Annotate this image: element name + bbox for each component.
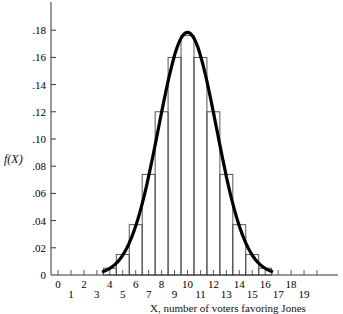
histogram-bar bbox=[129, 225, 142, 275]
x-tick-label: 9 bbox=[172, 288, 178, 300]
y-tick-label: .02 bbox=[32, 242, 46, 254]
histogram-bars bbox=[103, 36, 271, 275]
x-tick-label: 12 bbox=[208, 278, 219, 290]
x-tick-label: 18 bbox=[286, 278, 298, 290]
x-tick-label: 8 bbox=[159, 278, 165, 290]
normal-curve bbox=[102, 32, 273, 272]
x-tick-label: 15 bbox=[247, 288, 259, 300]
y-tick-label: .04 bbox=[32, 215, 46, 227]
x-tick-label: 1 bbox=[68, 288, 74, 300]
x-tick-label: 6 bbox=[133, 278, 139, 290]
x-tick-label: 2 bbox=[81, 278, 87, 290]
x-tick-label: 11 bbox=[195, 288, 206, 300]
y-tick-label: .14 bbox=[32, 79, 46, 91]
y-tick-label: .06 bbox=[32, 187, 46, 199]
y-tick-label: .18 bbox=[32, 24, 46, 36]
x-tick-label: 16 bbox=[260, 278, 272, 290]
y-axis-ticks: 0.02.04.06.08.10.12.14.16.18 bbox=[32, 24, 56, 281]
y-axis-label: f(X) bbox=[4, 152, 23, 167]
x-axis-label: X, number of voters favoring Jones bbox=[150, 302, 306, 314]
y-tick-label: .12 bbox=[32, 106, 46, 118]
x-tick-label: 14 bbox=[234, 278, 246, 290]
y-tick-label: .10 bbox=[32, 133, 46, 145]
y-tick-label: .16 bbox=[32, 51, 46, 63]
histogram-bar bbox=[168, 57, 181, 275]
y-tick-label: .08 bbox=[32, 160, 46, 172]
x-tick-label: 10 bbox=[182, 278, 194, 290]
histogram-bar bbox=[181, 36, 194, 275]
x-tick-label: 4 bbox=[107, 278, 113, 290]
histogram-bar bbox=[194, 57, 207, 275]
x-tick-label: 3 bbox=[94, 288, 100, 300]
x-tick-label: 5 bbox=[120, 288, 126, 300]
x-tick-label: 17 bbox=[273, 288, 285, 300]
y-tick-label: 0 bbox=[41, 269, 47, 281]
x-tick-label: 19 bbox=[299, 288, 311, 300]
histogram-bar bbox=[233, 225, 246, 275]
x-tick-label: 13 bbox=[221, 288, 233, 300]
x-tick-label: 7 bbox=[146, 288, 152, 300]
x-tick-label: 0 bbox=[55, 278, 61, 290]
